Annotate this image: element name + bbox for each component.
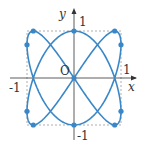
x-neg-label: -1 bbox=[9, 81, 21, 95]
y-arrow-icon bbox=[72, 8, 77, 14]
curve-point bbox=[24, 42, 29, 47]
y-neg-label: -1 bbox=[77, 129, 89, 143]
curve-point bbox=[112, 28, 117, 33]
curve-point bbox=[31, 122, 36, 127]
curve-point bbox=[71, 28, 76, 33]
x-pos-label: 1 bbox=[123, 63, 131, 77]
x-axis-label: x bbox=[128, 80, 135, 94]
y-pos-label: 1 bbox=[79, 15, 87, 29]
y-axis-label: y bbox=[58, 7, 66, 21]
lissajous-figure: y 1 O 1 x -1 -1 bbox=[0, 0, 142, 152]
curve-point bbox=[118, 42, 123, 47]
curve-point bbox=[112, 122, 117, 127]
origin-label: O bbox=[60, 64, 70, 78]
curve-point bbox=[71, 122, 76, 127]
curve-point bbox=[71, 75, 76, 80]
curve-point bbox=[118, 109, 123, 114]
curve-point bbox=[31, 28, 36, 33]
curve-point bbox=[24, 109, 29, 114]
